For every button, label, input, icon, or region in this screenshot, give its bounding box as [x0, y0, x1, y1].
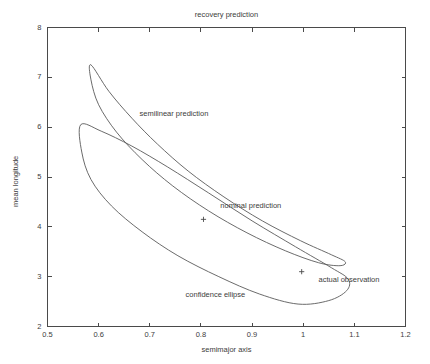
chart-figure: recovery prediction mean longitude semim… — [0, 0, 430, 364]
data-markers — [201, 217, 304, 275]
marker-actual-observation — [299, 269, 304, 274]
x-tick-label: 0.6 — [79, 331, 119, 339]
x-axis-title: semimajor axis — [147, 346, 307, 354]
curve-semilinear-prediction — [89, 65, 345, 266]
plot-area — [0, 0, 430, 364]
semilinear-prediction-label: semilinear prediction — [140, 110, 209, 118]
y-tick-label: 4 — [14, 223, 42, 231]
y-tick-label: 2 — [14, 323, 42, 331]
y-tick-label: 6 — [14, 123, 42, 131]
x-tick-label: 0.8 — [181, 331, 221, 339]
actual-observation-label: actual observation — [319, 276, 380, 284]
marker-nominal-prediction — [201, 217, 206, 222]
nominal-prediction-label: nominal prediction — [220, 202, 281, 210]
y-tick-label: 8 — [14, 24, 42, 32]
x-tick-label: 1.1 — [334, 331, 374, 339]
y-tick-label: 7 — [14, 73, 42, 81]
x-tick-label: 0.5 — [28, 331, 68, 339]
x-tick-label: 1 — [283, 331, 323, 339]
confidence-ellipse-label: confidence ellipse — [186, 291, 246, 299]
y-axis-title: mean longitude — [12, 156, 20, 207]
x-tick-label: 0.7 — [130, 331, 170, 339]
y-tick-label: 3 — [14, 273, 42, 281]
data-curves — [79, 65, 350, 305]
y-tick-label: 5 — [14, 173, 42, 181]
chart-title: recovery prediction — [127, 11, 327, 19]
x-tick-label: 0.9 — [232, 331, 272, 339]
x-tick-label: 1.2 — [386, 331, 426, 339]
